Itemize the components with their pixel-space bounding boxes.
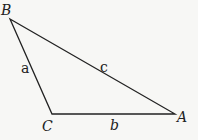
side-label-a: a bbox=[21, 60, 29, 76]
side-label-c: c bbox=[100, 59, 108, 75]
vertex-label-a: A bbox=[175, 109, 187, 125]
side-label-b: b bbox=[110, 117, 119, 133]
vertex-label-c: C bbox=[42, 118, 53, 134]
triangle-abc bbox=[10, 19, 175, 114]
vertex-label-b: B bbox=[0, 2, 11, 18]
triangle-diagram: B C A a c b bbox=[0, 0, 198, 140]
